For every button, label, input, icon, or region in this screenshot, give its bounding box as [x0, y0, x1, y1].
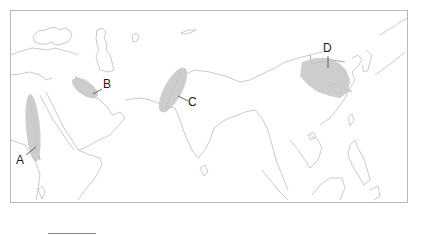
- region-label-b: B: [103, 78, 111, 90]
- map-canvas: [0, 0, 423, 235]
- region-a-nile: [23, 94, 43, 163]
- region-label-a: A: [16, 154, 24, 166]
- region-c-indus: [153, 64, 192, 117]
- coastlines: [11, 18, 408, 200]
- region-d-huang-he: [300, 58, 350, 98]
- region-label-d: D: [323, 42, 332, 54]
- region-label-c: C: [188, 96, 197, 108]
- scale-bar: [48, 233, 96, 234]
